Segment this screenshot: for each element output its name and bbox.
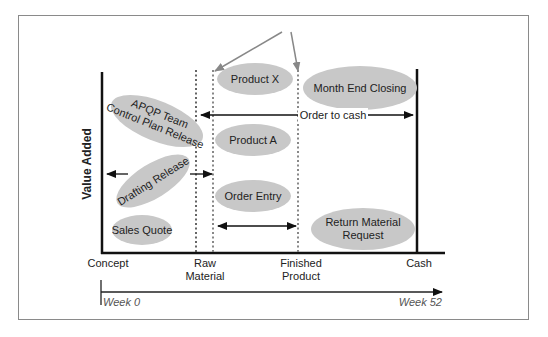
- return-label-line1: Return Material: [325, 216, 400, 228]
- timeline-start-label: Week 0: [103, 296, 141, 308]
- product-a-label: Product A: [229, 134, 277, 146]
- order-to-cash-label: Order to cash: [300, 109, 367, 121]
- value-stream-diagram: Product X Month End Closing APQP Team Co…: [0, 0, 548, 337]
- sales-quote-label: Sales Quote: [112, 224, 173, 236]
- tick-cash: Cash: [406, 257, 432, 269]
- tick-concept: Concept: [88, 257, 129, 269]
- product-x-label: Product X: [231, 73, 280, 85]
- tick-finished: Finished: [280, 257, 322, 269]
- tick-raw: Raw: [194, 257, 216, 269]
- pointer-arrow-right: [291, 32, 298, 71]
- month-end-label: Month End Closing: [314, 82, 407, 94]
- order-entry-label: Order Entry: [225, 190, 282, 202]
- return-label-line2: Request: [343, 229, 384, 241]
- tick-material: Material: [185, 270, 224, 282]
- bubble-drafting: Drafting Release: [108, 144, 197, 217]
- timeline-end-label: Week 52: [399, 296, 442, 308]
- tick-product: Product: [282, 270, 320, 282]
- y-axis-label: Value Added: [80, 128, 94, 200]
